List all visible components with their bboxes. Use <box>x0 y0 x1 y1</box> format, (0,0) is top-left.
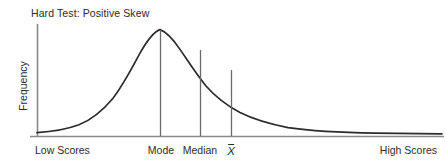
chart-title: Hard Test: Positive Skew <box>31 7 149 19</box>
mean-symbol-wrapper: X <box>227 144 235 157</box>
x-axis-high-scores-label: High Scores <box>380 144 437 156</box>
mean-label: X <box>227 144 235 157</box>
mean-symbol: X <box>227 145 235 157</box>
x-axis-low-scores-label: Low Scores <box>35 144 90 156</box>
skewed-distribution-figure: Hard Test: Positive Skew Frequency Low S… <box>0 0 447 168</box>
median-label: Median <box>183 144 217 156</box>
distribution-curve <box>37 30 442 134</box>
overbar-icon <box>228 144 235 145</box>
mode-label: Mode <box>148 144 174 156</box>
y-axis-label: Frequency <box>17 41 29 131</box>
distribution-plot <box>0 0 447 168</box>
